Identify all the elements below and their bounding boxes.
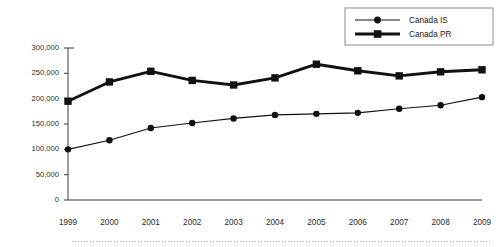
- data-point-canada-pr: [230, 81, 237, 88]
- data-point-canada-is: [148, 125, 154, 131]
- chart-canvas: 050,000100,000150,000200,000250,000300,0…: [0, 0, 500, 247]
- x-tick-label: 2001: [142, 218, 161, 227]
- data-point-canada-pr: [271, 74, 278, 81]
- x-tick-label: 2008: [431, 218, 450, 227]
- data-point-canada-pr: [64, 98, 71, 105]
- data-point-canada-is: [479, 94, 485, 100]
- series-markers-canada-pr: [64, 61, 485, 105]
- legend-marker-circle-canada-is: [374, 17, 381, 24]
- data-point-canada-is: [355, 110, 361, 116]
- data-point-canada-pr: [354, 67, 361, 74]
- data-point-canada-pr: [396, 72, 403, 79]
- data-point-canada-is: [272, 112, 278, 118]
- x-tick-label: 2005: [307, 218, 326, 227]
- y-axis-ticks: [64, 48, 68, 200]
- x-tick-label: 2002: [183, 218, 202, 227]
- footer-dotted-rule: [72, 241, 492, 242]
- data-point-canada-pr: [478, 66, 485, 73]
- data-point-canada-pr: [189, 77, 196, 84]
- line-chart: 050,000100,000150,000200,000250,000300,0…: [0, 0, 500, 247]
- legend-label-canada-pr: Canada PR: [409, 30, 451, 39]
- data-point-canada-pr: [313, 61, 320, 68]
- y-tick-label: 250,000: [32, 68, 59, 77]
- data-point-canada-pr: [106, 78, 113, 85]
- data-point-canada-is: [230, 115, 236, 121]
- x-tick-label: 2009: [473, 218, 492, 227]
- data-point-canada-is: [396, 106, 402, 112]
- x-tick-label: 2006: [349, 218, 368, 227]
- x-tick-label: 2004: [266, 218, 285, 227]
- data-point-canada-pr: [437, 68, 444, 75]
- x-tick-label: 2007: [390, 218, 409, 227]
- data-point-canada-is: [313, 111, 319, 117]
- x-axis-tick-labels: 1999200020012002200320042005200620072008…: [59, 218, 492, 227]
- legend-marker-square-canada-pr: [374, 30, 382, 38]
- y-tick-label: 300,000: [32, 43, 59, 52]
- data-point-canada-pr: [147, 68, 154, 75]
- y-tick-label: 150,000: [32, 119, 59, 128]
- legend-label-canada-is: Canada IS: [409, 16, 448, 25]
- y-tick-label: 100,000: [32, 144, 59, 153]
- axis-lines: [68, 48, 482, 200]
- x-tick-label: 2003: [224, 218, 243, 227]
- x-tick-label: 2000: [100, 218, 119, 227]
- data-point-canada-is: [106, 137, 112, 143]
- series-line-canada-is: [68, 97, 482, 149]
- y-tick-label: 200,000: [32, 94, 59, 103]
- legend-box: [345, 8, 493, 45]
- y-tick-label: 50,000: [36, 170, 59, 179]
- chart-legend: Canada IS Canada PR: [345, 8, 493, 45]
- series-markers-canada-is: [65, 94, 485, 153]
- series-line-canada-pr: [68, 64, 482, 101]
- data-point-canada-is: [189, 120, 195, 126]
- data-point-canada-is: [65, 146, 71, 152]
- data-point-canada-is: [437, 102, 443, 108]
- y-axis-tick-labels: 050,000100,000150,000200,000250,000300,0…: [32, 43, 59, 204]
- x-tick-label: 1999: [59, 218, 78, 227]
- y-tick-label: 0: [55, 195, 59, 204]
